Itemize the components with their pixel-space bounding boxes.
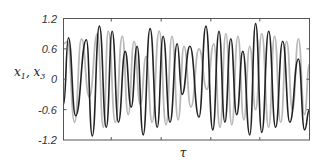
- x-axis-label: τ: [180, 146, 187, 160]
- y-tick-label: -1.2: [38, 134, 57, 146]
- y-tick-label: 0.6: [42, 43, 58, 55]
- y-tick-label: -0.6: [38, 104, 58, 116]
- y-tick-label: 0: [51, 73, 58, 85]
- y-tick-label: 1.2: [42, 13, 57, 25]
- y-axis-label: x1, x3: [14, 65, 45, 81]
- line-chart: 1.20.60-0.6-1.2 x1, x3 τ: [0, 0, 318, 162]
- plot-series: [64, 24, 310, 136]
